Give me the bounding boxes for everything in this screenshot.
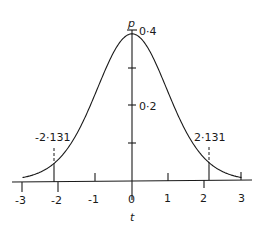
chart-canvas: p 0·4 0·2 -2·131 2·131 -3 -2 -1 0 1 2 3 … (0, 0, 262, 238)
x-tick-label-0: 0 (128, 193, 135, 206)
critical-label-right: 2·131 (194, 131, 226, 144)
x-tick-label-minus-1: -1 (88, 193, 99, 206)
x-tick-label-minus-3: -3 (15, 194, 26, 207)
y-tick-label-0.4: 0·4 (139, 25, 157, 38)
y-tick-label-0.2: 0·2 (139, 100, 157, 113)
t-distribution-chart: p 0·4 0·2 -2·131 2·131 -3 -2 -1 0 1 2 3 … (0, 0, 262, 238)
x-tick-label-2: 2 (200, 192, 207, 205)
x-tick-label-1: 1 (164, 192, 171, 205)
x-tick-label-3: 3 (238, 192, 245, 205)
x-tick-label-minus-2: -2 (51, 194, 62, 207)
critical-label-left: -2·131 (35, 131, 70, 144)
y-axis-label: p (127, 17, 135, 30)
x-axis-label: t (130, 211, 135, 224)
